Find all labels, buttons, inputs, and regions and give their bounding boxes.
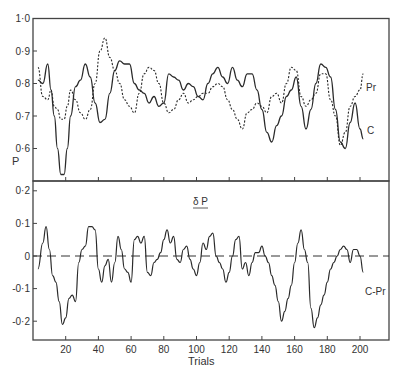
x-tick-label: 120 — [221, 344, 238, 355]
upper-y-tick-label: 0·6 — [16, 143, 31, 154]
lower-y-tick-label: -0·1 — [12, 283, 30, 294]
upper-y-axis-label: P — [12, 155, 19, 167]
lower-panel-title: δ P — [193, 196, 208, 207]
upper-panel-frame — [33, 19, 389, 182]
x-axis: 20406080100120140160180200 — [60, 177, 369, 355]
c-minus-pr-series-line — [38, 227, 363, 328]
x-axis-label: Trials — [188, 355, 215, 367]
x-tick-label: 20 — [60, 344, 72, 355]
x-tick-label: 140 — [254, 344, 271, 355]
c-series-label: C — [367, 125, 374, 136]
figure: 0·60·70·80·91·0 P 0·20·10-0·1-0·2 204060… — [0, 0, 404, 373]
lower-y-tick-label: 0 — [24, 251, 30, 262]
upper-y-tick-label: 0·7 — [16, 111, 31, 122]
x-tick-label: 60 — [126, 344, 138, 355]
upper-y-axis: 0·60·70·80·91·0 — [16, 13, 37, 154]
lower-y-tick-label: 0·2 — [16, 185, 31, 196]
x-tick-label: 40 — [93, 344, 105, 355]
lower-y-tick-label: -0·2 — [12, 316, 30, 327]
x-tick-label: 160 — [286, 344, 303, 355]
x-tick-label: 180 — [319, 344, 336, 355]
x-tick-label: 100 — [188, 344, 205, 355]
x-tick-label: 80 — [158, 344, 170, 355]
upper-y-tick-label: 0·8 — [16, 78, 31, 89]
upper-y-tick-label: 1·0 — [16, 13, 31, 24]
c-minus-pr-series-label: C-Pr — [365, 286, 386, 297]
upper-y-tick-label: 0·9 — [16, 46, 31, 57]
x-tick-label: 200 — [352, 344, 369, 355]
lower-y-tick-label: 0·1 — [16, 218, 31, 229]
pr-series-label: Pr — [366, 82, 377, 93]
